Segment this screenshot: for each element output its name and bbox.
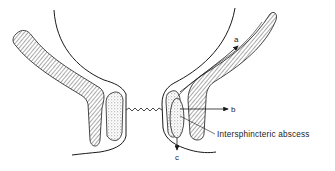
anal-canal-line (126, 108, 162, 111)
abscess (170, 98, 184, 138)
label-b: b (231, 105, 236, 114)
right-external-sphincter (188, 12, 277, 140)
label-intersphincteric-abscess: Intersphincteric abscess (217, 130, 310, 139)
label-a: a (234, 35, 239, 44)
left-wall (13, 10, 126, 155)
label-c: c (175, 153, 179, 162)
left-internal-sphincter (106, 92, 123, 141)
intersphincteric-plane (178, 22, 262, 96)
intersphincteric-abscess-diagram: a b c Intersphincteric abscess (0, 0, 335, 171)
left-external-sphincter (13, 30, 104, 146)
